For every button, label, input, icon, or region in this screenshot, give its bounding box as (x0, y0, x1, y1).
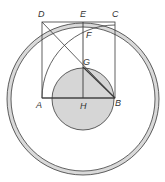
label-e: E (80, 9, 87, 19)
label-h: H (80, 101, 87, 111)
label-b: B (115, 98, 121, 108)
geometry-diagram: D E C F G A H B (0, 0, 165, 182)
label-a: A (35, 100, 42, 110)
label-c: C (112, 9, 119, 19)
label-f: F (86, 30, 92, 40)
label-d: D (38, 9, 45, 19)
label-g: G (83, 57, 90, 67)
